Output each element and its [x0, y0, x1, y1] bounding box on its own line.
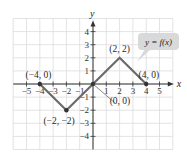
point-label: (4, 0) [139, 70, 160, 81]
x-tick-label: 4 [144, 86, 149, 96]
point-label: (−2, −2) [43, 116, 74, 127]
y-tick-label: −3 [79, 118, 89, 128]
x-tick-label: 2 [117, 86, 122, 96]
x-tick-label: −5 [22, 86, 32, 96]
y-tick-label: 3 [85, 40, 90, 50]
x-tick-label: 3 [131, 86, 136, 96]
point-label: (−4, 0) [26, 70, 52, 81]
point-label: (2, 2) [109, 44, 130, 55]
point-label: (0, 0) [110, 96, 131, 107]
data-point [38, 82, 42, 86]
data-point [64, 108, 68, 112]
y-tick-label: 2 [85, 53, 90, 63]
y-tick-label: 4 [85, 27, 90, 37]
function-graph: xy −5−4−3−2−112345−4−3−2−11234 (−4, 0)(−… [0, 0, 187, 153]
x-axis-label: x [176, 78, 182, 89]
y-tick-label: −4 [79, 131, 89, 141]
x-tick-label: 5 [157, 86, 162, 96]
function-label: y = f(x) [144, 37, 172, 47]
y-tick-label: 1 [85, 66, 90, 76]
y-tick-label: −2 [79, 105, 89, 115]
callout-pointer [137, 49, 151, 62]
y-axis-label: y [89, 8, 95, 19]
x-tick-label: −2 [62, 86, 72, 96]
data-point [144, 82, 148, 86]
y-axis-arrow-icon [91, 21, 96, 27]
